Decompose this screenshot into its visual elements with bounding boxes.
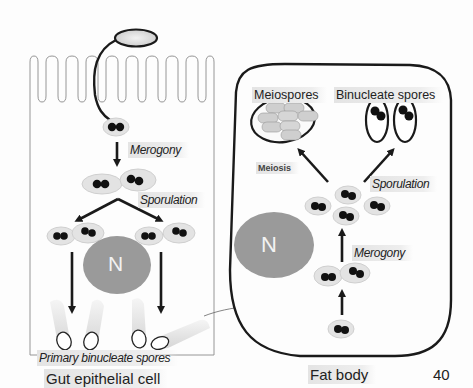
polar-tube-spore [115, 30, 157, 47]
life-cycle-diagram: Merogony Sporulation N Primary binucleat… [0, 0, 473, 388]
fat-body-cell [230, 64, 451, 356]
sporoplasm-cell [103, 118, 129, 136]
label-sporulation-left: Sporulation [138, 192, 205, 208]
label-gut-epithelial-cell: Gut epithelial cell [44, 369, 168, 388]
diagram-canvas [0, 0, 473, 388]
sporoplasm-fat [328, 320, 354, 338]
label-nucleus-right: N [261, 232, 277, 258]
label-meiosis: Meiosis [256, 162, 299, 174]
label-nucleus-left: N [108, 252, 123, 276]
label-merogony-left: Merogony [128, 142, 189, 158]
label-sporulation-right: Sporulation [370, 176, 437, 192]
label-binucleate-spores: Binucleate spores [334, 87, 443, 103]
slide-number: 40 [433, 366, 450, 383]
label-primary-binucleate-spores: Primary binucleate spores [37, 350, 178, 366]
label-merogony-right: Merogony [352, 245, 413, 261]
label-fat-body: Fat body [308, 365, 376, 384]
label-meiospores: Meiospores [252, 87, 327, 103]
